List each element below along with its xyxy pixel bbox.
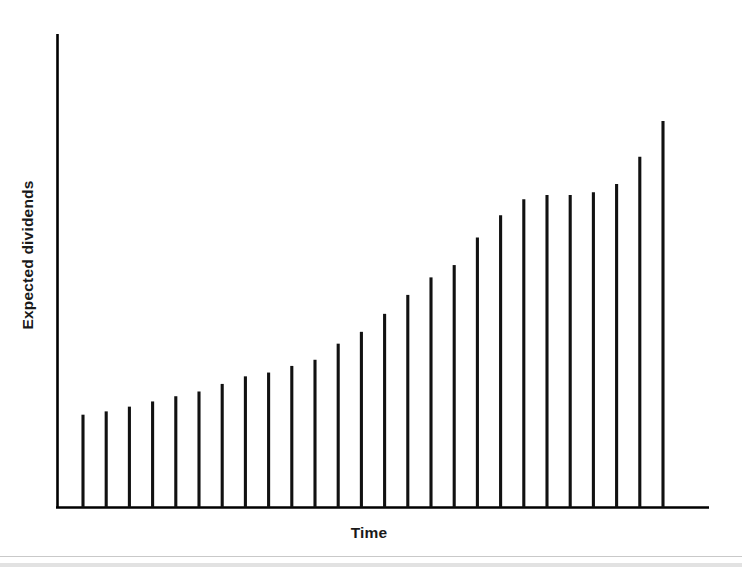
chart-figure: Expected dividends Time: [0, 0, 742, 567]
bar-series: [83, 121, 663, 507]
y-axis-label: Expected dividends: [19, 180, 37, 329]
page-bottom-edge: [0, 556, 742, 567]
page-bottom-shade: [0, 563, 742, 567]
y-axis-label-container: Expected dividends: [0, 0, 56, 510]
x-axis-label: Time: [0, 524, 740, 542]
chart-plot-area: [0, 0, 742, 567]
